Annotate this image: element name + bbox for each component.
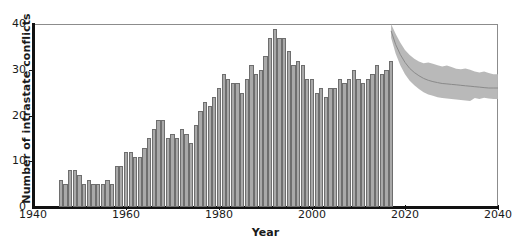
x-tick-2040: 2040 <box>468 209 520 220</box>
y-tick-30: 30 <box>0 64 26 75</box>
x-tick-2020: 2020 <box>375 209 435 220</box>
x-tick-1940: 1940 <box>3 209 63 220</box>
y-tick-40: 40 <box>0 18 26 29</box>
x-tick-2000: 2000 <box>282 209 342 220</box>
conflict-projection-chart: Number of intrastate conflicts Year 0102… <box>0 0 520 247</box>
y-tick-20: 20 <box>0 110 26 121</box>
x-tick-1980: 1980 <box>189 209 249 220</box>
x-tick-1960: 1960 <box>96 209 156 220</box>
y-tick-10: 10 <box>0 155 26 166</box>
x-axis-title: Year <box>33 226 498 239</box>
projection-uncertainty-band <box>33 24 498 207</box>
plot-area <box>33 24 498 207</box>
band-polygon <box>391 24 498 101</box>
